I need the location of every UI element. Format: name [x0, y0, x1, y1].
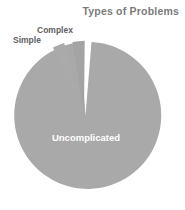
- pie-label-complex: Complex: [37, 25, 73, 35]
- pie-label-uncomplicated: Uncomplicated: [38, 132, 134, 143]
- pie-slice-uncomplicated: [14, 42, 161, 189]
- pie-chart-graphic: [0, 0, 185, 210]
- pie-label-simple: Simple: [13, 35, 41, 45]
- pie-chart-figure: Types of Problems Simple Complex Uncompl…: [0, 0, 185, 210]
